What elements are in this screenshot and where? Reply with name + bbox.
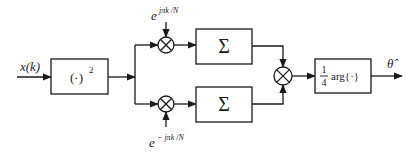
bottom-multiplier	[158, 96, 174, 112]
arg-fraction-numerator: 1	[322, 64, 327, 75]
bottom-sum-block: Σ	[196, 87, 252, 122]
top-exponent-label: e jπk /N	[151, 6, 179, 23]
output-label: θ̂	[387, 56, 398, 71]
arg-fraction-denominator: 4	[322, 77, 327, 88]
top-sum-to-combiner	[252, 46, 283, 67]
square-block-superscript: 2	[89, 65, 94, 75]
square-block-label: (·)	[70, 70, 83, 85]
square-block: (·) 2	[51, 59, 108, 94]
bottom-exponent-label: e − jπk /N	[149, 133, 184, 150]
top-sum-label: Σ	[218, 35, 230, 57]
top-sum-block: Σ	[196, 29, 252, 64]
svg-text:e: e	[151, 8, 157, 23]
block-diagram: x(k) (·) 2 e jπk /N Σ e − jπk /N	[0, 0, 415, 161]
svg-text:− jπk /N: − jπk /N	[157, 133, 184, 142]
bottom-sum-to-combiner	[252, 85, 283, 104]
top-multiplier	[158, 37, 174, 53]
svg-text:e: e	[149, 135, 155, 150]
arg-label: arg{·}	[331, 70, 359, 82]
bottom-sum-label: Σ	[218, 93, 230, 115]
combiner-multiplier	[274, 67, 292, 85]
arg-block: 1 4 arg{·}	[315, 59, 371, 93]
svg-text:jπk /N: jπk /N	[158, 6, 179, 15]
input-label: x(k)	[19, 59, 40, 74]
